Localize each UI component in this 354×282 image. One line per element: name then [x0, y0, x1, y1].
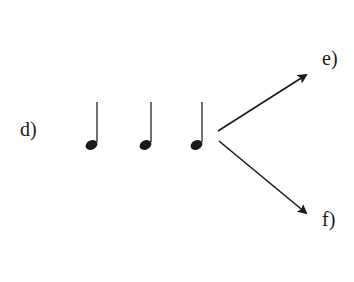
label-d: d)	[20, 119, 37, 139]
quarter-note-3	[189, 102, 204, 152]
quarter-note-1	[84, 102, 99, 152]
label-f: f)	[322, 209, 335, 229]
label-e: e)	[322, 48, 338, 68]
quarter-note-2	[138, 102, 153, 152]
arrow-up-right-icon	[218, 75, 306, 131]
arrow-down-right-icon	[219, 141, 306, 213]
music-diagram: d) e) f)	[0, 0, 354, 282]
